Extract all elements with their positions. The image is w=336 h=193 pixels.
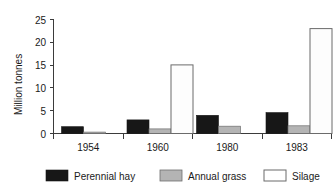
x-tick-label-1960: 1960 [147,142,170,153]
bar-perennial-hay-1954 [62,127,84,134]
y-axis-title: Million tonnes [13,54,24,115]
bar-annual-grass-1983 [288,126,310,134]
y-tick-label-5: 5 [40,106,46,117]
white-outline-swatch-icon [264,170,286,181]
y-tick-label-20: 20 [35,37,47,48]
legend-item-annual-grass: Annual grass [160,170,246,182]
bar-chart: 25 20 15 10 5 0 Million tonnes 1954 1960… [0,0,336,193]
black-filled-swatch-icon [46,170,68,181]
bar-group-1960 [127,65,193,134]
y-tick-label-10: 10 [35,83,47,94]
gray-filled-swatch-icon [160,170,182,181]
x-tick-label-1983: 1983 [286,142,309,153]
bar-perennial-hay-1983 [266,113,288,134]
bar-annual-grass-1954 [84,132,106,133]
bar-group-1980 [197,115,241,133]
legend-item-perennial-hay: Perennial hay [46,170,135,182]
x-tick-label-1980: 1980 [216,142,239,153]
y-axis: 25 20 15 10 5 0 Million tonnes [13,15,54,140]
x-tick-label-1954: 1954 [77,142,100,153]
legend-label-perennial-hay: Perennial hay [74,171,135,182]
bar-perennial-hay-1980 [197,115,219,133]
bar-silage-1960 [171,65,193,134]
legend-label-annual-grass: Annual grass [188,171,246,182]
legend: Perennial hay Annual grass Silage [46,170,320,182]
y-tick-label-15: 15 [35,60,47,71]
bar-perennial-hay-1960 [127,120,149,134]
bar-group-1983 [266,29,332,134]
bar-group-1954 [62,127,106,134]
legend-item-silage: Silage [264,170,320,182]
legend-label-silage: Silage [292,171,320,182]
y-tick-label-0: 0 [40,129,46,140]
x-axis: 1954 1960 1980 1983 [54,134,332,154]
y-tick-label-25: 25 [35,15,47,26]
bar-annual-grass-1960 [149,129,171,134]
bar-annual-grass-1980 [219,126,241,133]
bar-silage-1983 [310,29,332,134]
